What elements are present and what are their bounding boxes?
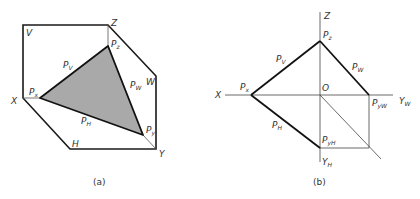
label-h: H [72, 139, 79, 149]
caption-a: (a) [93, 177, 106, 187]
label-pz-b: Pz [323, 30, 332, 41]
trace-pv [251, 41, 320, 95]
trace-ph [251, 95, 320, 148]
label-px: Px [29, 87, 38, 98]
label-w: W [146, 77, 156, 87]
label-z-b: Z [323, 11, 331, 21]
figure-a: V Z W X Y H Pz PV PW Px PH Py (a) [10, 18, 166, 187]
caption-b: (b) [313, 177, 326, 187]
label-py: Py [146, 125, 155, 137]
label-yw: YW [399, 96, 412, 107]
diagram-canvas: V Z W X Y H Pz PV PW Px PH Py (a) Z X O … [0, 0, 420, 199]
plane-p-triangle [40, 46, 143, 135]
y-axis-edge [143, 135, 156, 149]
label-pv: PV [63, 60, 73, 71]
label-x: X [10, 96, 18, 106]
label-pw-b: PW [352, 62, 364, 73]
figure-b: Z X O YW YH Pz PV PW Px PH PyW PyH (b) [214, 11, 412, 187]
label-pz: Pz [111, 39, 120, 50]
label-o: O [322, 83, 329, 93]
label-ph-b: PH [272, 120, 282, 131]
label-ph: PH [81, 116, 91, 127]
label-px-b: Px [240, 82, 249, 93]
label-y: Y [159, 149, 166, 159]
label-pyw: PyW [372, 98, 388, 110]
label-pv-b: PV [276, 54, 286, 65]
label-v: V [26, 28, 33, 38]
label-pw: PW [130, 80, 142, 91]
label-z: Z [110, 18, 118, 28]
label-yh: YH [322, 157, 333, 168]
label-x-b: X [214, 90, 222, 100]
label-pyh: PyH [322, 135, 336, 147]
